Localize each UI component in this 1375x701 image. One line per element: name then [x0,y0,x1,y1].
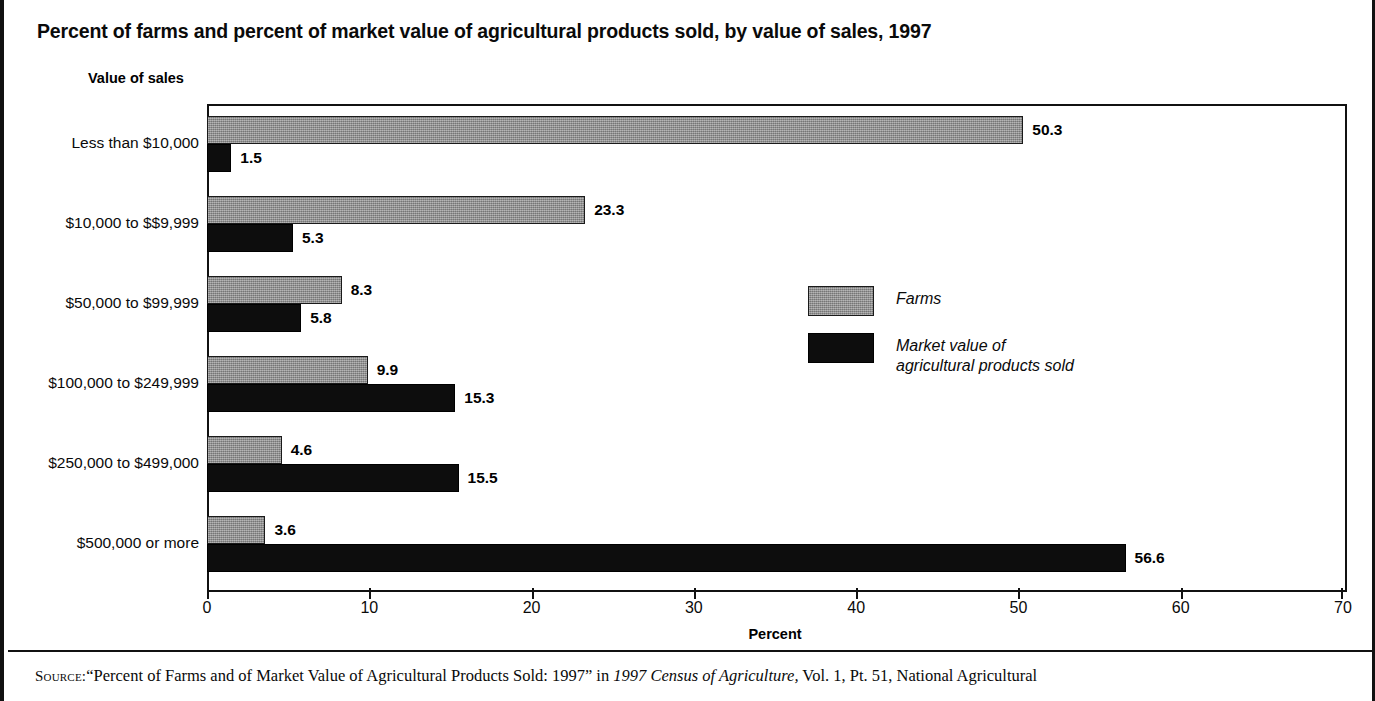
bar-market [207,304,301,332]
x-axis-tick-label: 30 [685,599,703,617]
category-label: $10,000 to $$9,999 [4,214,199,232]
x-axis-tick-label: 40 [847,599,865,617]
bar-value-label: 1.5 [240,144,262,172]
source-text-part1: “Percent of Farms and of Market Value of… [86,666,613,685]
legend-label-market-line1: Market value of [896,337,1005,354]
x-axis-tick-label: 20 [523,599,541,617]
source-text-part2: Vol. 1, Pt. 51, National Agricultural [799,666,1038,685]
x-axis-tick [369,588,371,599]
bar-market [207,224,293,252]
legend-label-farms: Farms [896,286,941,309]
source-keyword: Source: [35,668,86,684]
bar-value-label: 15.5 [468,464,498,492]
legend-item-farms: Farms [808,286,1138,316]
x-axis-tick-label: 70 [1334,599,1352,617]
legend-swatch-farms [808,286,874,316]
bar-market [207,464,459,492]
bar-farms [207,276,342,304]
bar-value-label: 23.3 [594,196,624,224]
bar-value-label: 15.3 [464,384,494,412]
bar-market [207,544,1126,572]
x-axis-tick-label: 10 [360,599,378,617]
chart-page: Percent of farms and percent of market v… [0,0,1375,701]
bar-farms [207,196,585,224]
legend-label-market-value: Market value of agricultural products so… [896,333,1074,376]
bar-value-label: 5.3 [302,224,324,252]
x-axis-tick [1018,588,1020,599]
x-axis-tick-label: 50 [1010,599,1028,617]
bar-group: 4.615.5 [207,436,1343,492]
bar-value-label: 9.9 [377,356,399,384]
bar-farms [207,356,368,384]
legend-label-market-line2: agricultural products sold [896,356,1074,376]
bar-group: 8.35.8 [207,276,1343,332]
bar-group: 50.31.5 [207,116,1343,172]
category-label: $500,000 or more [4,534,199,552]
bar-group: 9.915.3 [207,356,1343,412]
bar-market [207,144,231,172]
x-axis-tick [1341,588,1343,599]
y-axis-title: Value of sales [88,70,184,86]
bar-market [207,384,455,412]
bar-value-label: 5.8 [310,304,332,332]
x-axis-tick [207,588,209,599]
legend-swatch-market-value [808,333,874,363]
x-axis-tick [532,588,534,599]
x-axis-tick-label: 0 [203,599,212,617]
category-label: $50,000 to $99,999 [4,294,199,312]
source-publication-title: 1997 Census of Agriculture, [613,666,798,685]
bar-farms [207,436,282,464]
category-label: $100,000 to $249,999 [4,374,199,392]
bar-group: 3.656.6 [207,516,1343,572]
bar-value-label: 4.6 [291,436,313,464]
x-axis-tick-labels: 010203040506070 [207,599,1343,623]
bar-value-label: 3.6 [274,516,296,544]
x-axis-title: Percent [207,626,1343,642]
page-title: Percent of farms and percent of market v… [37,20,931,43]
x-axis-tick-label: 60 [1172,599,1190,617]
x-axis-tick [694,588,696,599]
legend: Farms Market value of agricultural produ… [808,286,1138,393]
bar-farms [207,116,1023,144]
x-axis-tick [1181,588,1183,599]
bar-value-label: 8.3 [351,276,373,304]
category-label: Less than $10,000 [4,134,199,152]
bar-value-label: 56.6 [1135,544,1165,572]
plot-area: 50.31.523.35.38.35.89.915.34.615.53.656.… [207,104,1343,588]
bar-group: 23.35.3 [207,196,1343,252]
category-label: $250,000 to $499,000 [4,454,199,472]
category-label-column: Less than $10,000$10,000 to $$9,999$50,0… [4,104,199,588]
x-axis-tick [856,588,858,599]
bar-value-label: 50.3 [1032,116,1062,144]
source-divider [8,650,1375,652]
source-note: Source:“Percent of Farms and of Market V… [35,666,1335,686]
bar-farms [207,516,265,544]
legend-item-market-value: Market value of agricultural products so… [808,333,1138,376]
